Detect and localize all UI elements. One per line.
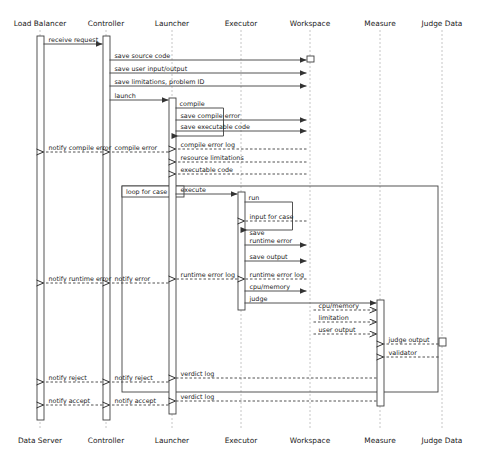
message-label-m26: limitation — [319, 314, 349, 322]
message-label-m31: notify reject — [115, 374, 154, 382]
participant-footer-workspace: Workspace — [290, 436, 331, 445]
message-label-m11: executable code — [181, 166, 234, 174]
participant-header-controller: Controller — [88, 19, 125, 28]
act-workspace — [307, 56, 314, 62]
participant-header-judge_data: Judge Data — [421, 19, 463, 28]
participant-header-workspace: Workspace — [290, 19, 331, 28]
message-m31: notify reject — [110, 374, 169, 382]
message-m34: notify accept — [110, 397, 169, 405]
message-label-m21: notify error — [115, 275, 151, 283]
message-label-m14: execute — [181, 186, 206, 194]
participant-header-executor: Executor — [225, 19, 259, 28]
message-label-m10: resource limitations — [181, 154, 245, 162]
message-label-m4: save limitations, problem ID — [115, 78, 205, 86]
message-label-m12: compile error — [115, 144, 158, 152]
message-m19: runtime error log — [245, 271, 307, 279]
message-label-m19: runtime error log — [250, 271, 304, 279]
message-label-m24: judge — [249, 295, 268, 303]
act-executor — [238, 192, 245, 310]
message-m26: limitation — [314, 314, 377, 322]
message-label-m25: cpu/memory — [319, 302, 360, 310]
message-label-m30: verdict log — [181, 370, 215, 378]
message-label-m23: cpu/memory — [250, 283, 291, 291]
participant-footer-launcher: Launcher — [155, 436, 190, 445]
message-m4: save limitations, problem ID — [110, 78, 307, 86]
header-labels-group: Load BalancerControllerLauncherExecutorW… — [14, 19, 463, 28]
message-m1: receive request — [44, 36, 103, 44]
message-label-m3: save user input/output — [115, 65, 188, 73]
message-m28: judge output — [384, 336, 439, 344]
footer-labels-group: Data ServerControllerLauncherExecutorWor… — [18, 436, 463, 445]
message-m17: saveruntime error — [245, 229, 307, 245]
message-label-m7: save compile error — [181, 112, 241, 120]
message-m16: input for case — [245, 213, 307, 221]
participant-footer-executor: Executor — [225, 436, 259, 445]
message-label-m18: save output — [250, 253, 289, 261]
message-m2: save source code — [110, 52, 307, 60]
message-m8: save executable code — [176, 123, 307, 131]
act-measure — [377, 300, 384, 406]
message-m5: launch — [110, 92, 169, 100]
activations-group — [37, 36, 446, 420]
act-load-balancer — [37, 36, 44, 420]
message-m21: notify error — [110, 275, 169, 283]
message-label-m6: compile — [180, 100, 205, 108]
message-label-m13: notify compile error — [49, 144, 112, 152]
message-m12: compile error — [110, 144, 169, 152]
message-m30: verdict log — [176, 370, 377, 378]
message-label-m9: compile error log — [181, 141, 235, 149]
act-launcher — [169, 98, 176, 414]
message-m18: save output — [245, 253, 307, 261]
message-label-m20: runtime error log — [181, 271, 235, 279]
message-m13: notify compile error — [44, 144, 112, 152]
message-m10: resource limitations — [176, 154, 307, 162]
message-label-m28: judge output — [388, 336, 430, 344]
message-m27: user output — [314, 326, 377, 334]
message-m32: notify reject — [44, 374, 103, 382]
message-m23: cpu/memory — [245, 283, 307, 291]
message-label-m34: notify accept — [115, 397, 157, 405]
participant-footer-judge_data: Judge Data — [421, 436, 463, 445]
message-label-m17-1: runtime error — [250, 237, 293, 245]
message-m33: verdict log — [176, 393, 377, 401]
act-judge-data — [439, 338, 446, 346]
message-label-m29: validator — [389, 349, 418, 357]
participant-footer-data_server: Data Server — [18, 436, 63, 445]
message-label-m22: notify runtime error — [49, 275, 112, 283]
message-m20: runtime error log — [176, 271, 238, 279]
message-label-m32: notify reject — [49, 374, 88, 382]
message-m14: execute — [176, 186, 238, 194]
sequence-diagram-canvas: loop for case receive requestsave source… — [0, 0, 486, 457]
message-label-m15: run — [249, 194, 260, 202]
act-controller — [103, 36, 110, 420]
participant-header-load_balancer: Load Balancer — [14, 19, 68, 28]
participant-footer-controller: Controller — [88, 436, 125, 445]
message-m3: save user input/output — [110, 65, 307, 73]
message-label-m16: input for case — [250, 213, 294, 221]
sequence-diagram-svg: loop for case receive requestsave source… — [0, 0, 486, 457]
message-label-m1: receive request — [49, 36, 99, 44]
participant-footer-measure: Measure — [364, 436, 396, 445]
participant-header-launcher: Launcher — [155, 19, 190, 28]
message-label-m35: notify accept — [49, 397, 91, 405]
message-m22: notify runtime error — [44, 275, 112, 283]
message-label-m33: verdict log — [181, 393, 215, 401]
participant-header-measure: Measure — [364, 19, 396, 28]
message-m35: notify accept — [44, 397, 103, 405]
message-label-m5: launch — [115, 92, 136, 100]
fragment-label-loop-for-case: loop for case — [126, 188, 167, 196]
message-m29: validator — [384, 349, 439, 357]
message-label-m2: save source code — [115, 52, 171, 60]
message-label-m8: save executable code — [181, 123, 251, 131]
message-label-m27: user output — [319, 326, 357, 334]
